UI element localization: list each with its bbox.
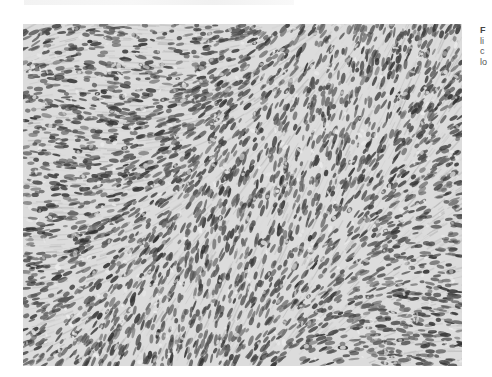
caption-label: F [480,25,492,36]
histology-image [23,24,462,366]
caption-line-1: li [480,36,492,47]
caption-line-2: c [480,46,492,57]
cropped-text-fragment [24,0,294,5]
caption-line-3: lo [480,57,492,68]
figure-caption: F li c lo [480,25,492,67]
micrograph-figure [23,24,462,366]
